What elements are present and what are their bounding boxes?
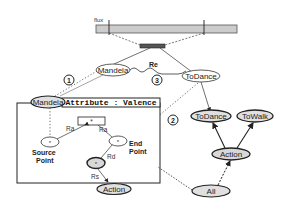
marker-2: 2: [168, 115, 178, 125]
svg-text:Action: Action: [220, 150, 242, 159]
relation-re: [130, 68, 186, 74]
node-action-hier[interactable]: Action: [212, 148, 250, 160]
svg-text:Mandela: Mandela: [98, 66, 129, 75]
svg-text:2: 2: [171, 117, 175, 124]
marker-3: 3: [152, 75, 162, 85]
svg-text:ToDance: ToDance: [195, 112, 227, 121]
node-star-box[interactable]: *: [78, 117, 105, 125]
source-label-2: Point: [36, 157, 54, 164]
diagram-canvas: flux Mandela Re ToDance 1 3 2: [0, 0, 285, 211]
node-source[interactable]: *: [41, 137, 59, 147]
edge-label-rs: Rs: [91, 173, 100, 180]
svg-text:3: 3: [155, 77, 159, 84]
timeline-label: flux: [94, 17, 103, 23]
node-todance-top[interactable]: ToDance: [182, 70, 220, 82]
node-mandela-top[interactable]: Mandela: [96, 64, 130, 76]
timeline-bar: [96, 25, 237, 33]
node-end[interactable]: *: [109, 136, 127, 146]
timeline: flux: [94, 17, 237, 35]
node-mandela-box[interactable]: Mandela: [31, 96, 65, 108]
node-mid[interactable]: *: [87, 158, 105, 169]
node-all[interactable]: All: [192, 185, 230, 197]
end-label-2: Point: [129, 148, 147, 155]
svg-text:ToDance: ToDance: [185, 72, 217, 81]
svg-text:1: 1: [67, 77, 71, 84]
end-label-1: End: [129, 140, 142, 147]
time-segment: [140, 44, 165, 48]
edge-label-ra-left: Ra: [66, 125, 75, 132]
svg-text:All: All: [207, 187, 216, 196]
svg-text:Mandela: Mandela: [33, 98, 64, 107]
source-label-1: Source: [32, 149, 56, 156]
svg-text:ToWalk: ToWalk: [242, 112, 269, 121]
node-towalk[interactable]: ToWalk: [237, 110, 273, 122]
relation-label: Re: [149, 61, 158, 68]
edge-label-rd: Rd: [107, 153, 116, 160]
marker-1: 1: [64, 75, 74, 85]
node-todance-hier[interactable]: ToDance: [191, 110, 231, 122]
svg-text:Action: Action: [103, 185, 125, 194]
node-action-box[interactable]: Action: [97, 184, 131, 195]
edge-label-ra-right: Ra: [99, 126, 108, 133]
box-title: Attribute : Valence: [65, 98, 156, 107]
